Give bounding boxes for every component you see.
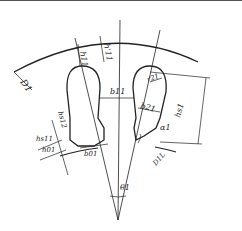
label-b01: b01 bbox=[84, 150, 97, 158]
slot-left bbox=[67, 66, 104, 146]
label-r21: r21 bbox=[146, 72, 160, 84]
dim-hs1 bbox=[198, 78, 206, 144]
label-h01: h01 bbox=[42, 146, 55, 154]
label-theta1: θ1 bbox=[120, 183, 130, 192]
inner-arc-right bbox=[155, 147, 176, 152]
label-hs12: hs12 bbox=[56, 110, 68, 129]
label-D1: D1 bbox=[18, 77, 34, 94]
label-alpha1: α1 bbox=[160, 123, 171, 132]
label-b11: b11 bbox=[110, 87, 125, 96]
label-hs1: hs1 bbox=[173, 102, 185, 118]
rotor-slot-diagram: D1 h11 h'11 b11 r21 b21 hs1 hs12 hs11 h0… bbox=[0, 0, 242, 231]
ext-bottom-right bbox=[160, 142, 202, 144]
label-D1L: D1L bbox=[151, 151, 167, 168]
label-hs11: hs11 bbox=[36, 135, 53, 143]
